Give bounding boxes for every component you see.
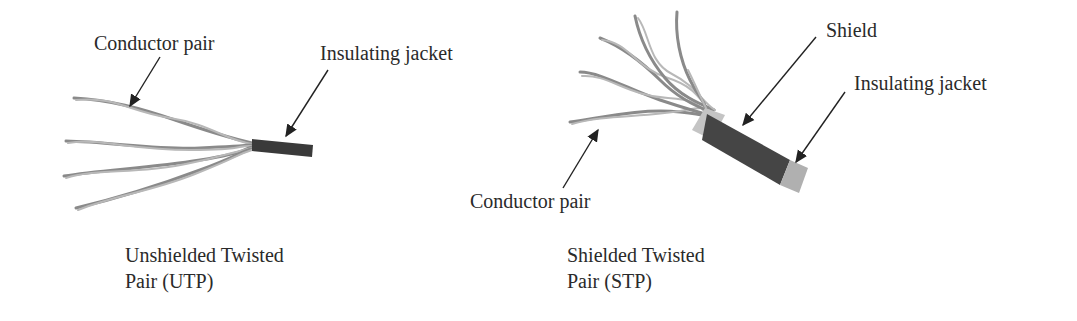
stp-insulating-jacket-label: Insulating jacket: [854, 72, 987, 95]
utp-jacket-arrow: [286, 70, 328, 136]
utp-conductor-pairs: [64, 98, 252, 210]
twisted-pair-diagram: Conductor pair Insulating jacket Unshiel…: [0, 0, 1077, 321]
stp-caption-line2: Pair (STP): [567, 270, 652, 293]
stp-caption-line1: Shielded Twisted: [567, 244, 705, 266]
utp-conductor-pair-label: Conductor pair: [94, 32, 215, 55]
utp-caption-line1: Unshielded Twisted: [125, 244, 284, 266]
utp-insulating-jacket-label: Insulating jacket: [320, 42, 453, 65]
stp-shield-arrow: [743, 37, 816, 125]
stp-conductor-pairs: [570, 12, 715, 124]
stp-conductor-pair-label: Conductor pair: [470, 190, 591, 213]
utp-insulating-jacket: [252, 139, 313, 157]
utp-cable: Conductor pair Insulating jacket Unshiel…: [64, 32, 453, 293]
utp-conductor-pair-arrow: [130, 57, 160, 106]
stp-cable: Shield Insulating jacket Conductor pair …: [470, 12, 987, 293]
stp-shield-label: Shield: [826, 19, 877, 41]
stp-jacket-arrow: [796, 92, 845, 162]
stp-conductor-pair-arrow: [563, 130, 598, 188]
stp-shield: [702, 114, 790, 185]
utp-caption-line2: Pair (UTP): [125, 270, 213, 293]
